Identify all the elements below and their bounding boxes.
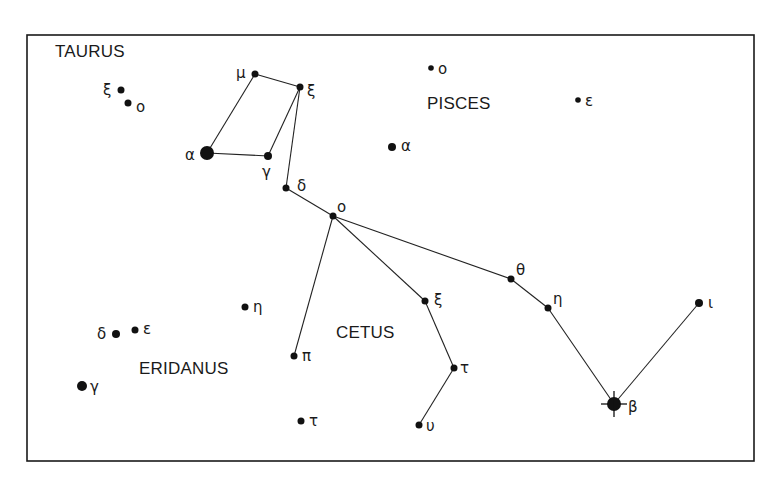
star-label: π	[302, 347, 311, 365]
star-cet-pi	[291, 353, 298, 360]
star-tau-o	[125, 100, 132, 107]
star-cet-tau-b	[298, 418, 305, 425]
star-cet-iota	[695, 299, 703, 307]
star-eri-delta	[112, 330, 120, 338]
star-label: η	[553, 290, 563, 308]
star-label: o	[136, 98, 145, 116]
star-labels: ξoμξαγδoεαoθηβιξτυπτηδεγ	[90, 60, 713, 435]
constellation-line	[548, 308, 614, 404]
star-label: o	[337, 198, 346, 216]
star-eri-epsilon	[132, 327, 139, 334]
constellation-line	[333, 216, 425, 301]
star-eri-gamma	[77, 381, 87, 391]
star-label: τ	[460, 359, 469, 377]
constellation-line	[333, 216, 511, 279]
constellation-lines	[207, 74, 699, 425]
constellation-name-cetus: CETUS	[336, 323, 395, 342]
star-tau-alpha	[200, 146, 214, 160]
star-label: γ	[90, 378, 99, 396]
constellation-line	[286, 188, 333, 216]
star-tau-xi-a	[118, 87, 125, 94]
star-psc-alpha	[388, 143, 396, 151]
star-cet-o	[330, 213, 337, 220]
star-label: ξ	[103, 81, 111, 99]
star-psc-epsilon	[575, 97, 581, 103]
star-label: δ	[97, 325, 106, 343]
star-label: υ	[426, 417, 435, 435]
constellation-line	[207, 153, 268, 156]
star-label: ξ	[307, 82, 315, 100]
constellation-name-taurus: TAURUS	[55, 42, 125, 61]
constellation-name-pisces: PISCES	[427, 94, 491, 113]
star-cet-upsilon	[416, 422, 423, 429]
constellation-line	[425, 301, 454, 368]
star-cet-xi	[422, 298, 429, 305]
star-label: o	[438, 60, 447, 78]
star-label: δ	[297, 177, 306, 195]
star-label: γ	[262, 163, 271, 181]
star-eri-eta	[242, 304, 249, 311]
constellation-line	[255, 74, 300, 87]
star-tau-xi-b	[297, 84, 304, 91]
star-tau-mu	[252, 71, 259, 78]
star-cet-eta	[545, 305, 552, 312]
constellation-line	[419, 368, 454, 425]
star-label: α	[185, 146, 195, 164]
star-tau-delta	[283, 185, 290, 192]
star-label: ε	[143, 320, 151, 338]
star-cet-theta	[508, 276, 515, 283]
star-label: τ	[309, 412, 318, 430]
star-label: β	[628, 398, 638, 416]
star-label: η	[253, 298, 263, 316]
constellation-line	[614, 303, 699, 404]
constellation-line	[511, 279, 548, 308]
star-tau-gamma	[264, 152, 272, 160]
star-label: ε	[585, 92, 593, 110]
star-psc-o	[428, 65, 434, 71]
constellation-line	[207, 74, 255, 153]
constellation-name-eridanus: ERIDANUS	[139, 359, 228, 378]
constellation-line	[294, 216, 333, 356]
star-label: θ	[516, 261, 525, 279]
star-label: ι	[708, 294, 713, 312]
star-chart: ξoμξαγδoεαoθηβιξτυπτηδεγ TAURUSPISCESCET…	[0, 0, 782, 487]
star-label: μ	[236, 64, 246, 82]
star-label: ξ	[434, 291, 442, 309]
star-label: α	[401, 137, 411, 155]
star-cet-tau-a	[451, 365, 458, 372]
